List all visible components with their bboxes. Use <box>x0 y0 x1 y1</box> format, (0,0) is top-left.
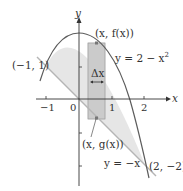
x-tick-label-1: 1 <box>109 102 115 113</box>
x-axis-label: x <box>172 92 178 104</box>
leader-line <box>91 119 96 137</box>
label-bottom-point: (x, g(x)) <box>82 138 124 150</box>
y-axis-label: y <box>74 7 82 19</box>
label-right-intersection: (2, −2) <box>149 160 183 172</box>
x-tick-label-2: 2 <box>141 102 147 113</box>
point-bottom-marker <box>95 117 98 120</box>
area-diagram: y x −1 0 1 2 (−1, 1) (2, −2) (x, f(x)) (… <box>0 0 183 191</box>
label-lower-curve: y = −x <box>103 157 140 169</box>
delta-x-label: Δx <box>91 67 105 79</box>
point-top-marker <box>95 42 98 45</box>
label-left-intersection: (−1, 1) <box>12 59 49 71</box>
x-tick-label-neg1: −1 <box>40 102 55 113</box>
approximating-rectangle <box>88 43 105 119</box>
x-axis-arrow-icon <box>166 97 171 102</box>
label-upper-curve: y = 2 − x2 <box>114 51 169 64</box>
label-top-point: (x, f(x)) <box>95 27 134 39</box>
x-tick-label-0: 0 <box>70 102 76 113</box>
